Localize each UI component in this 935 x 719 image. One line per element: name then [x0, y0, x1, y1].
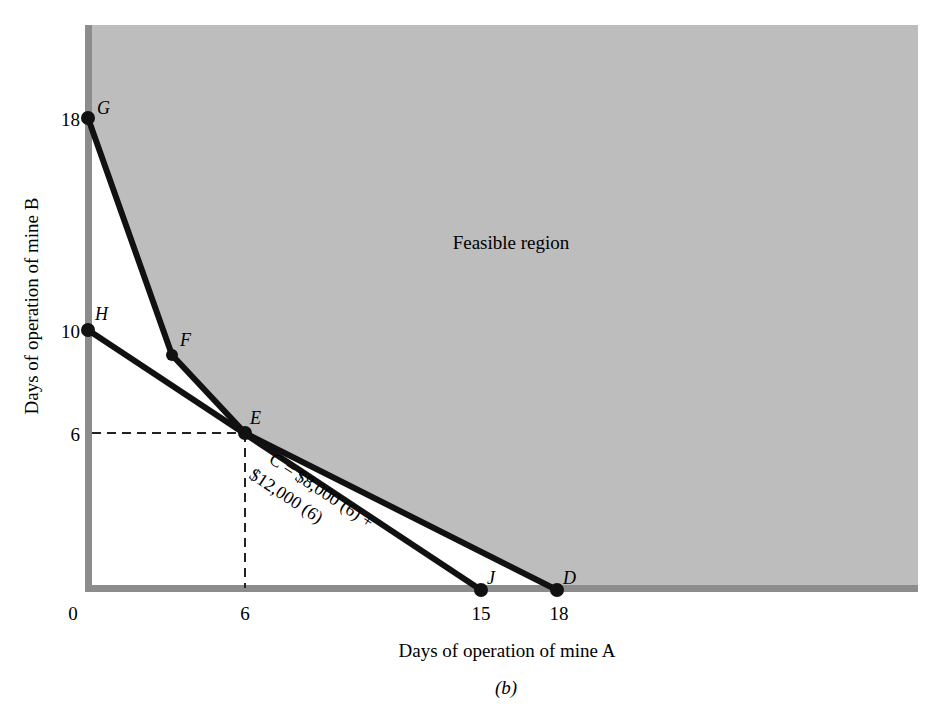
x-axis — [85, 585, 918, 592]
x-tick-15: 15 — [472, 603, 491, 624]
point-D — [550, 583, 564, 597]
label-E: E — [249, 408, 261, 428]
point-G — [81, 111, 95, 125]
label-D: D — [562, 568, 576, 588]
point-E — [238, 426, 252, 440]
label-F: F — [179, 330, 192, 350]
point-J — [474, 583, 488, 597]
point-F — [166, 349, 178, 361]
label-H: H — [94, 304, 109, 324]
feasible-region — [88, 25, 918, 588]
x-tick-6: 6 — [240, 603, 250, 624]
y-tick-18: 18 — [61, 109, 80, 130]
label-J: J — [487, 568, 496, 588]
chart-canvas: G F E D H J 18 10 6 0 6 15 18 Feasible r… — [0, 0, 935, 719]
y-axis — [85, 25, 92, 592]
figure-caption: (b) — [495, 677, 517, 699]
x-tick-18: 18 — [550, 603, 569, 624]
y-axis-title: Days of operation of mine B — [21, 198, 42, 415]
x-tick-0: 0 — [68, 603, 78, 624]
feasible-region-label: Feasible region — [453, 232, 570, 253]
y-tick-10: 10 — [61, 321, 80, 342]
y-tick-6: 6 — [71, 424, 81, 445]
point-H — [81, 323, 95, 337]
label-G: G — [97, 98, 110, 118]
x-axis-title: Days of operation of mine A — [399, 640, 616, 661]
